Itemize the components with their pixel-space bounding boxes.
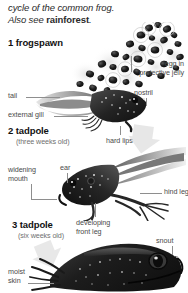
label-mouth-line2: mouth [8,174,28,183]
widening-mouth-leader-line [31,184,32,200]
moist-skin-leader-line [28,283,54,284]
label-nostril: nostril [134,89,153,98]
label-hind-leg: hind leg [164,188,188,197]
label-tail: tail [8,92,17,101]
label-developing-front-leg: developing front leg [76,219,130,236]
widening-mouth-leader-line-horizontal [31,199,57,200]
intro-line-2-prefix: Also see [8,14,46,25]
label-widening-mouth: widening mouth [8,166,54,183]
snout-leader-line [172,246,173,255]
illustration-page: cycle of the common frog. Also see rainf… [0,0,188,293]
hind-leg-leader-line [140,193,162,194]
label-egg-in-protective-jelly: egg in protective jelly [86,60,184,77]
label-ear: ear [60,164,70,173]
tail-leader-line [26,97,60,98]
external-gill-leader-line [54,116,88,117]
tadpole-six-weeks-artwork [36,145,188,221]
nostril-leader-line [146,98,147,106]
intro-line-1: cycle of the common frog. [8,2,186,14]
stage-3-heading: 3 tadpole [12,219,53,230]
developing-front-leg-leader-line [95,203,96,217]
stage-2-heading: 2 tadpole [8,125,49,136]
tadpole-six-weeks-svg [36,145,188,221]
label-skin-line2: skin [8,276,21,285]
hard-lips-leader-line [120,126,121,135]
label-protective-jelly-line2: protective jelly [139,68,184,77]
ear-leader-line [67,173,68,183]
label-external-gill: external gill [8,111,44,120]
stage-1-heading: 1 frogspawn [8,37,63,48]
label-snout: snout [156,237,173,246]
